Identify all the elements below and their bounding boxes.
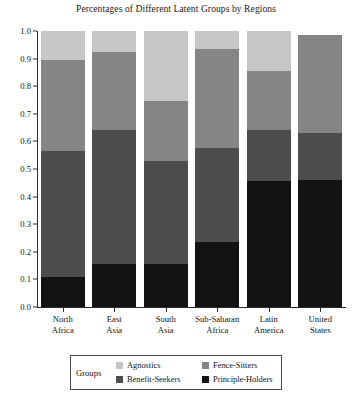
- x-tick-label: UnitedStates: [309, 314, 332, 336]
- y-tick-label: 0.9: [20, 54, 37, 64]
- legend-swatch-icon: [202, 376, 209, 383]
- bar-segment-agnostics[interactable]: [247, 31, 291, 71]
- legend-swatch-icon: [116, 362, 123, 369]
- legend: Groups AgnosticsFence-SittersBenefit-See…: [70, 355, 282, 390]
- bar-segment-fence-sitters[interactable]: [247, 71, 291, 130]
- x-tick-label-line: North: [52, 314, 74, 325]
- bar-east-asia[interactable]: [92, 31, 136, 307]
- bar-segment-agnostics[interactable]: [144, 31, 188, 101]
- x-tick-label: NorthAfrica: [52, 314, 74, 336]
- x-tick-mark: [217, 308, 218, 312]
- bar-segment-fence-sitters[interactable]: [195, 49, 239, 148]
- bar-segment-agnostics[interactable]: [195, 31, 239, 49]
- bar-segment-benefit-seekers[interactable]: [195, 148, 239, 242]
- bar-segment-principle-holders[interactable]: [247, 181, 291, 307]
- x-tick-mark: [63, 308, 64, 312]
- x-tick-label-line: East: [106, 314, 122, 325]
- bar-segment-fence-sitters[interactable]: [41, 60, 85, 151]
- bar-segment-fence-sitters[interactable]: [92, 52, 136, 131]
- bar-segment-benefit-seekers[interactable]: [247, 130, 291, 181]
- y-tick-label: 0.5: [20, 164, 37, 174]
- x-tick-label-line: America: [254, 325, 284, 336]
- bar-segment-agnostics[interactable]: [41, 31, 85, 60]
- bar-united-states[interactable]: [298, 31, 342, 307]
- legend-title: Groups: [76, 368, 101, 378]
- y-tick-label: 1.0: [20, 26, 37, 36]
- bar-segment-benefit-seekers[interactable]: [92, 130, 136, 264]
- legend-item-benefit-seekers[interactable]: Benefit-Seekers: [116, 375, 200, 384]
- bar-segment-principle-holders[interactable]: [298, 180, 342, 307]
- bar-latin-america[interactable]: [247, 31, 291, 307]
- bar-segment-benefit-seekers[interactable]: [144, 161, 188, 265]
- x-tick-label-line: Latin: [254, 314, 284, 325]
- bar-segment-principle-holders[interactable]: [144, 264, 188, 307]
- x-axis-line: [37, 307, 346, 308]
- x-tick-label-line: Africa: [195, 325, 239, 336]
- legend-label: Principle-Holders: [213, 375, 273, 384]
- y-tick-label: 0.7: [20, 109, 37, 119]
- x-tick-mark: [166, 308, 167, 312]
- x-tick-label-line: South: [156, 314, 176, 325]
- bar-segment-principle-holders[interactable]: [41, 277, 85, 307]
- bar-segment-principle-holders[interactable]: [195, 242, 239, 307]
- bar-sub-saharan-africa[interactable]: [195, 31, 239, 307]
- chart-title: Percentages of Different Latent Groups b…: [0, 4, 352, 14]
- x-tick-mark: [269, 308, 270, 312]
- x-tick-label-line: States: [309, 325, 332, 336]
- x-tick-label: EastAsia: [106, 314, 122, 336]
- x-tick-label: SouthAsia: [156, 314, 176, 336]
- legend-swatch-icon: [202, 362, 209, 369]
- y-tick-label: 0.1: [20, 274, 37, 284]
- legend-item-fence-sitters[interactable]: Fence-Sitters: [202, 361, 278, 370]
- y-tick-label: 0.4: [20, 192, 37, 202]
- x-tick-label: Sub-SaharanAfrica: [195, 314, 239, 336]
- bar-segment-fence-sitters[interactable]: [298, 35, 342, 133]
- legend-item-principle-holders[interactable]: Principle-Holders: [202, 375, 278, 384]
- legend-swatch-icon: [116, 376, 123, 383]
- bar-segment-fence-sitters[interactable]: [144, 101, 188, 160]
- legend-label: Agnostics: [127, 361, 161, 370]
- x-tick-label-line: Asia: [106, 325, 122, 336]
- bars-layer: [37, 31, 346, 307]
- y-tick-label: 0.3: [20, 219, 37, 229]
- bar-segment-benefit-seekers[interactable]: [298, 133, 342, 180]
- y-tick-label: 0.6: [20, 136, 37, 146]
- bar-south-asia[interactable]: [144, 31, 188, 307]
- bar-north-africa[interactable]: [41, 31, 85, 307]
- x-tick-mark: [114, 308, 115, 312]
- bar-segment-benefit-seekers[interactable]: [41, 151, 85, 277]
- x-tick-label-line: Africa: [52, 325, 74, 336]
- legend-item-agnostics[interactable]: Agnostics: [116, 361, 200, 370]
- legend-label: Benefit-Seekers: [127, 375, 181, 384]
- bar-segment-principle-holders[interactable]: [92, 264, 136, 307]
- y-tick-label: 0.0: [20, 302, 37, 312]
- x-tick-label-line: Asia: [156, 325, 176, 336]
- x-tick-label-line: Sub-Saharan: [195, 314, 239, 325]
- x-tick-mark: [320, 308, 321, 312]
- x-tick-label-line: United: [309, 314, 332, 325]
- legend-items: AgnosticsFence-SittersBenefit-SeekersPri…: [116, 359, 278, 386]
- x-tick-label: LatinAmerica: [254, 314, 284, 336]
- y-tick-label: 0.8: [20, 81, 37, 91]
- stacked-bar-chart: Percentages of Different Latent Groups b…: [0, 0, 352, 398]
- y-tick-label: 0.2: [20, 247, 37, 257]
- legend-label: Fence-Sitters: [213, 361, 257, 370]
- bar-segment-agnostics[interactable]: [92, 31, 136, 52]
